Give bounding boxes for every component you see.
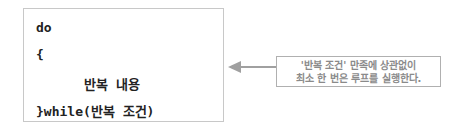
callout-annotation: '반복 조건' 만족에 상관없이 최소 한 번은 루프를 실행한다. xyxy=(276,56,441,87)
code-line-open-brace: { xyxy=(36,47,44,62)
code-block: do { 반복 내용 }while(반복 조건) xyxy=(23,8,224,122)
callout-line-2: 최소 한 번은 루프를 실행한다. xyxy=(277,72,440,85)
code-line-body: 반복 내용 xyxy=(84,74,140,93)
callout-line-1: '반복 조건' 만족에 상관없이 xyxy=(277,59,440,72)
code-line-do: do xyxy=(36,20,52,35)
arrow-connector xyxy=(240,66,276,68)
code-line-while: }while(반복 조건) xyxy=(36,101,154,120)
